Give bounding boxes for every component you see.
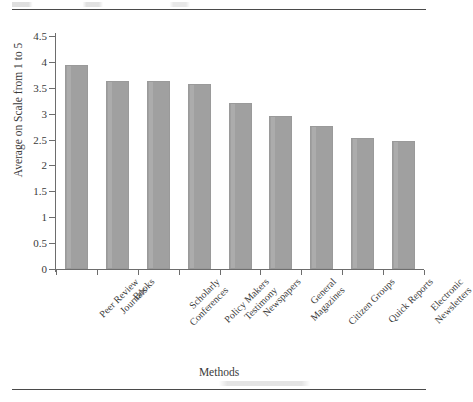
y-axis-title: Average on Scale from 1 to 5 <box>12 0 24 225</box>
x-axis-tick <box>56 270 57 275</box>
y-axis-tick <box>49 217 55 218</box>
x-axis-line <box>55 269 424 270</box>
y-axis-tick <box>49 62 55 63</box>
x-axis-tick <box>301 270 302 275</box>
x-axis-title: Methods <box>0 366 438 378</box>
bar <box>106 81 129 269</box>
page-rule-top <box>12 9 426 10</box>
y-axis-tick-label: 0.5 <box>0 238 47 249</box>
bar <box>65 65 88 269</box>
page-rule-bottom <box>12 389 426 390</box>
page-rule-ghost-top <box>12 2 426 7</box>
bar <box>188 84 211 269</box>
y-axis-tick <box>49 88 55 89</box>
bar <box>269 116 292 269</box>
bar <box>147 81 170 269</box>
x-axis-tick <box>383 270 384 275</box>
bar <box>392 141 415 269</box>
y-axis-tick <box>49 191 55 192</box>
x-axis-tick <box>260 270 261 275</box>
x-axis-tick <box>424 270 425 275</box>
x-axis-category-label: Scholarly Conferences <box>179 276 231 328</box>
plot-area <box>56 36 424 269</box>
x-axis-tick <box>138 270 139 275</box>
x-axis-tick <box>97 270 98 275</box>
y-axis-tick <box>49 140 55 141</box>
x-axis-tick <box>220 270 221 275</box>
y-axis-tick <box>49 269 55 270</box>
bar <box>351 138 374 270</box>
x-axis-tick <box>342 270 343 275</box>
page-rule-ghost-bottom <box>12 381 426 386</box>
x-axis-tick <box>179 270 180 275</box>
y-axis-tick <box>49 165 55 166</box>
y-axis-tick <box>49 114 55 115</box>
bar <box>310 126 333 269</box>
y-axis-tick <box>49 243 55 244</box>
bar <box>229 103 252 269</box>
y-axis-tick <box>49 36 55 37</box>
y-axis-tick-label: 0 <box>0 264 47 275</box>
x-axis-category-label: General Magazines <box>300 276 347 323</box>
